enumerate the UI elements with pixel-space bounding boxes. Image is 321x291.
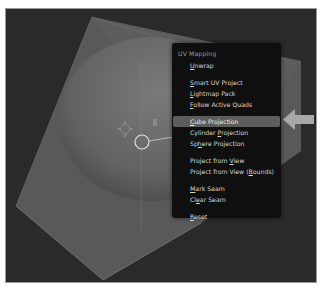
menu-item-unwrap[interactable]: Unwrap bbox=[173, 60, 280, 71]
menu-title: UV Mapping bbox=[172, 47, 281, 60]
light-icon bbox=[153, 119, 157, 126]
menu-item-sphere-projection[interactable]: Sphere Projection bbox=[173, 138, 280, 149]
menu-item-mark-seam[interactable]: Mark Seam bbox=[173, 183, 280, 194]
uv-mapping-menu: UV Mapping UnwrapSmart UV ProjectLightma… bbox=[172, 43, 281, 218]
menu-item-reset[interactable]: Reset bbox=[173, 211, 280, 222]
menu-item-cube-projection[interactable]: Cube Projection bbox=[173, 116, 280, 127]
menu-item-lightmap-pack[interactable]: Lightmap Pack bbox=[173, 88, 280, 99]
3d-viewport[interactable]: UV Mapping UnwrapSmart UV ProjectLightma… bbox=[5, 8, 317, 283]
menu-item-follow-active-quads[interactable]: Follow Active Quads bbox=[173, 99, 280, 110]
menu-item-project-from-view[interactable]: Project from View bbox=[173, 155, 280, 166]
menu-item-smart-uv-project[interactable]: Smart UV Project bbox=[173, 77, 280, 88]
menu-item-project-from-view-bounds[interactable]: Project from View (Bounds) bbox=[173, 166, 280, 177]
menu-item-clear-seam[interactable]: Clear Seam bbox=[173, 194, 280, 205]
menu-item-cylinder-projection[interactable]: Cylinder Projection bbox=[173, 127, 280, 138]
arrow-left-icon bbox=[283, 109, 314, 130]
